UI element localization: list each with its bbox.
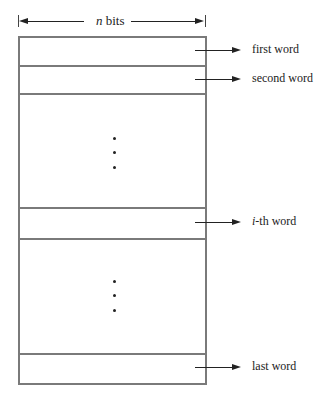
arrow-line <box>195 79 233 80</box>
dot <box>113 309 116 312</box>
divider-second-gap <box>20 93 205 95</box>
dot <box>113 137 116 140</box>
arrow-right-icon <box>232 219 241 225</box>
divider-gap-ith <box>20 207 205 209</box>
divider-first-second <box>20 65 205 67</box>
bits-unit: bits <box>103 13 125 28</box>
word-label: last word <box>252 359 296 373</box>
divider-ith-gap <box>20 238 205 240</box>
arrow-line <box>195 367 233 368</box>
memory-block <box>18 36 207 385</box>
dot <box>113 294 116 297</box>
dot <box>113 151 116 154</box>
arrow-right-icon <box>232 47 241 53</box>
right-dimension-line <box>131 21 196 22</box>
divider-gap-last <box>20 353 205 355</box>
right-tick <box>205 15 206 27</box>
left-dimension-line <box>26 21 84 22</box>
n-bits-label: n bits <box>96 14 125 28</box>
dot <box>113 280 116 283</box>
arrow-line <box>195 50 233 51</box>
right-arrowhead-icon <box>195 18 204 24</box>
arrow-right-icon <box>232 364 241 370</box>
arrow-line <box>195 222 233 223</box>
word-label: i-th word <box>252 214 296 228</box>
arrow-right-icon <box>232 76 241 82</box>
dot <box>113 166 116 169</box>
word-label: first word <box>252 42 299 56</box>
word-label: second word <box>252 71 313 85</box>
